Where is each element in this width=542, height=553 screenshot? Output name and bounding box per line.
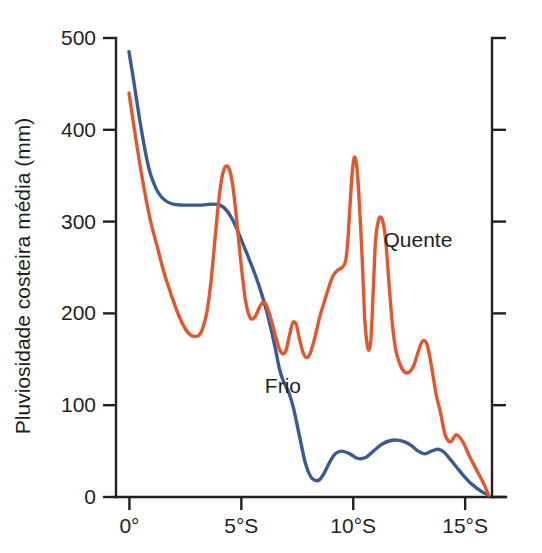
series-label-frio: Frio <box>265 374 301 397</box>
y-tick-label: 500 <box>61 26 96 49</box>
y-tick-label: 400 <box>61 118 96 141</box>
x-tick-label: 10°S <box>330 514 376 537</box>
y-tick-label: 100 <box>61 393 96 416</box>
y-tick-label: 200 <box>61 301 96 324</box>
y-tick-label: 300 <box>61 210 96 233</box>
rainfall-line-chart: 0100200300400500 0°5°S10°S15°S Pluviosid… <box>0 0 542 553</box>
x-tick-label: 15°S <box>442 514 488 537</box>
y-axis-title: Pluviosidade costeira média (mm) <box>11 118 34 434</box>
chart-container: 0100200300400500 0°5°S10°S15°S Pluviosid… <box>0 0 542 553</box>
x-tick-label: 0° <box>119 514 139 537</box>
series-label-quente: Quente <box>383 228 452 251</box>
y-tick-label: 0 <box>84 485 96 508</box>
x-tick-label: 5°S <box>224 514 258 537</box>
